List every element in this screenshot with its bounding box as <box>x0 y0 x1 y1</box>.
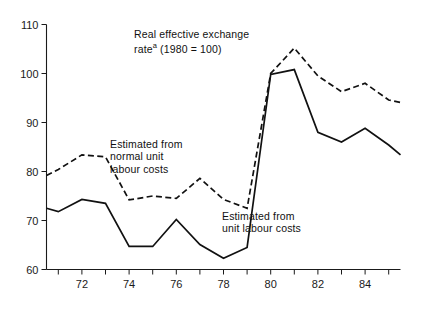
title-line-2-rest: (1980 = 100) <box>157 43 222 55</box>
normal-ulc-line-1: Estimated from <box>110 138 183 150</box>
y-tick-label-90: 90 <box>26 117 38 129</box>
x-tick-label-74: 74 <box>123 278 135 290</box>
chart-title-annotation: Real effective exchangeratea (1980 = 100… <box>134 28 249 55</box>
series-normal-unit-labour-costs <box>47 48 401 208</box>
y-tick-label-80: 80 <box>26 166 38 178</box>
y-tick-label-100: 100 <box>20 68 38 80</box>
chart-figure: 60708090100110 72747678808284 Real effec… <box>0 0 424 311</box>
y-tick-label-60: 60 <box>26 264 38 276</box>
x-tick-label-76: 76 <box>170 278 182 290</box>
y-tick-label-70: 70 <box>26 215 38 227</box>
ulc-line-2: unit labour costs <box>222 222 301 234</box>
x-tick-label-84: 84 <box>359 278 371 290</box>
y-tick-label-110: 110 <box>21 19 39 31</box>
x-tick-label-78: 78 <box>217 278 229 290</box>
unit-labour-costs-label: Estimated fromunit labour costs <box>222 210 301 235</box>
title-line-1: Real effective exchange <box>134 28 249 40</box>
y-axis-tick-labels: 60708090100110 <box>20 19 38 276</box>
title-line-2-prefix: rate <box>134 43 153 55</box>
x-tick-label-82: 82 <box>312 278 324 290</box>
x-axis-ticks <box>58 270 388 275</box>
y-axis-ticks <box>42 25 47 270</box>
x-tick-label-80: 80 <box>265 278 277 290</box>
normal-ulc-line-2: normal unit <box>110 150 164 162</box>
normal-ulc-line-3: labour costs <box>110 163 168 175</box>
normal-unit-labour-costs-label: Estimated fromnormal unitlabour costs <box>110 138 183 175</box>
x-axis-tick-labels: 72747678808284 <box>76 278 371 290</box>
ulc-line-1: Estimated from <box>222 210 295 222</box>
x-tick-label-72: 72 <box>76 278 88 290</box>
